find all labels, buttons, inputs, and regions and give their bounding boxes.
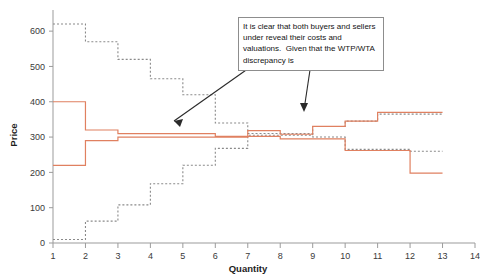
x-tick-label: 14 [470, 251, 480, 261]
y-tick-group: 0100200300400500600 [30, 26, 53, 248]
x-tick-label: 6 [213, 251, 218, 261]
arrow-shaft [174, 68, 249, 121]
x-tick-label: 4 [148, 251, 153, 261]
x-tick-label: 10 [340, 251, 350, 261]
arrow-head [300, 103, 308, 112]
chart-container: 0100200300400500600 Price 12345678910111… [0, 0, 480, 280]
x-tick-label: 2 [83, 251, 88, 261]
x-tick-label: 9 [310, 251, 315, 261]
y-axis: 0100200300400500600 Price [8, 10, 53, 248]
x-axis-title: Quantity [229, 263, 268, 274]
y-tick-label: 500 [30, 62, 45, 72]
y-axis-title: Price [8, 123, 19, 146]
x-tick-label: 3 [115, 251, 120, 261]
x-tick-group: 1234567891011121314 [50, 243, 480, 261]
y-tick-label: 600 [30, 26, 45, 36]
series-path [53, 112, 443, 165]
annotation-arrow-short [300, 70, 310, 112]
x-tick-label: 1 [50, 251, 55, 261]
annotation-text-box: It is clear that both buyers and sellers… [238, 17, 384, 71]
x-tick-label: 8 [278, 251, 283, 261]
x-tick-label: 12 [405, 251, 415, 261]
x-axis: 1234567891011121314 Quantity [50, 243, 480, 274]
x-tick-label: 11 [373, 251, 382, 261]
x-tick-label: 13 [438, 251, 448, 261]
y-tick-label: 200 [30, 168, 45, 178]
y-tick-label: 300 [30, 132, 45, 142]
x-tick-label: 7 [245, 251, 250, 261]
x-tick-label: 5 [180, 251, 185, 261]
y-tick-label: 400 [30, 97, 45, 107]
annotation-arrow-long [174, 68, 249, 127]
y-tick-label: 100 [30, 203, 45, 213]
y-tick-label: 0 [40, 238, 45, 248]
